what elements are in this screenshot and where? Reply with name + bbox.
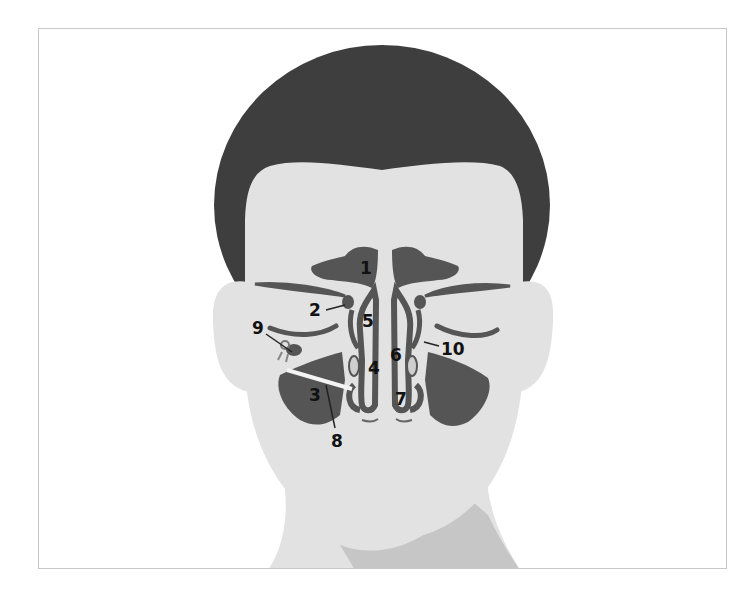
label-9: 9 bbox=[252, 318, 264, 338]
label-6: 6 bbox=[390, 345, 402, 365]
label-2: 2 bbox=[309, 300, 321, 320]
ear-left bbox=[213, 281, 248, 392]
label-1: 1 bbox=[360, 258, 372, 278]
eyeball-marker-right bbox=[407, 356, 417, 376]
label-3: 3 bbox=[309, 385, 321, 405]
label-7: 7 bbox=[395, 389, 407, 409]
ear-right bbox=[520, 281, 553, 392]
label-10: 10 bbox=[441, 339, 465, 359]
ethmoid-cell-right bbox=[414, 295, 426, 309]
sinus-diagram: 1 2 3 4 5 6 7 8 9 10 bbox=[0, 0, 749, 604]
label-5: 5 bbox=[362, 311, 374, 331]
label-8: 8 bbox=[331, 431, 343, 451]
label-4: 4 bbox=[368, 358, 380, 378]
ethmoid-cell-left bbox=[342, 295, 354, 309]
eyeball-marker-left bbox=[349, 356, 359, 376]
